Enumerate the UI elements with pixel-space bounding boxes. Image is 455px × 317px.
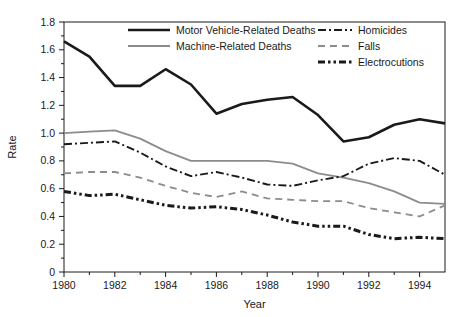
y-axis-title: Rate [6, 135, 18, 158]
series-line [64, 141, 445, 185]
legend-label: Motor Vehicle-Related Deaths [176, 24, 316, 36]
y-tick-label: 0 [49, 266, 55, 278]
x-tick-label: 1984 [154, 279, 178, 291]
legend-label: Electrocutions [358, 56, 424, 68]
x-tick-label: 1992 [357, 279, 381, 291]
series-line [64, 130, 445, 204]
series-line [64, 172, 445, 216]
y-tick-label: 1.6 [40, 43, 55, 55]
y-tick-label: 1.0 [40, 127, 55, 139]
x-tick-label: 1980 [52, 279, 76, 291]
y-tick-label: 0.8 [40, 154, 55, 166]
data-series-layer [64, 41, 445, 238]
chart-figure: 00.20.40.60.81.01.21.41.61.8198019821984… [0, 0, 455, 317]
series-line [64, 191, 445, 238]
x-tick-label: 1990 [306, 279, 330, 291]
line-chart: 00.20.40.60.81.01.21.41.61.8198019821984… [0, 0, 455, 317]
y-tick-label: 1.4 [40, 71, 55, 83]
legend-label: Homicides [358, 24, 407, 36]
chart-legend: Motor Vehicle-Related DeathsMachine-Rela… [128, 24, 424, 68]
x-tick-label: 1988 [256, 279, 280, 291]
y-tick-label: 1.2 [40, 99, 55, 111]
x-tick-label: 1986 [205, 279, 229, 291]
y-tick-label: 0.2 [40, 238, 55, 250]
y-tick-label: 0.6 [40, 182, 55, 194]
x-tick-label: 1994 [408, 279, 432, 291]
y-tick-label: 0.4 [40, 210, 55, 222]
x-axis-title: Year [243, 298, 266, 310]
x-tick-label: 1982 [103, 279, 127, 291]
y-tick-label: 1.8 [40, 16, 55, 28]
legend-label: Falls [358, 40, 380, 52]
legend-label: Machine-Related Deaths [176, 40, 292, 52]
